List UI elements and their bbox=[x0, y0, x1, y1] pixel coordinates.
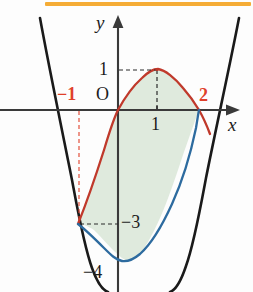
x-tick-label-1: 1 bbox=[151, 115, 160, 133]
origin-label: O bbox=[96, 85, 109, 103]
figure-root: y x O 1 1 −1 2 −3 −4 bbox=[0, 0, 253, 292]
x-intersection-label-2: 2 bbox=[199, 86, 208, 104]
graph-canvas bbox=[0, 0, 253, 292]
x-intersection-label-neg1: −1 bbox=[57, 85, 76, 103]
x-axis-label: x bbox=[228, 115, 236, 134]
y-tick-label-neg3: −3 bbox=[121, 213, 140, 231]
black-parabola-curve bbox=[40, 18, 108, 292]
y-axis-arrowhead bbox=[113, 15, 124, 28]
y-tick-label-neg4: −4 bbox=[83, 263, 102, 281]
y-tick-label-1: 1 bbox=[99, 60, 108, 78]
intersection-dot-peak bbox=[155, 68, 158, 71]
y-axis-label: y bbox=[96, 13, 104, 32]
